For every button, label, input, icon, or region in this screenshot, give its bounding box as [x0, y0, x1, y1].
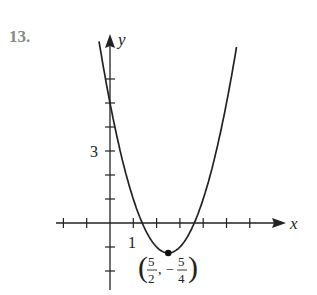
x-tick-label-1: 1	[128, 234, 136, 251]
svg-text:−: −	[166, 262, 174, 277]
svg-text:5: 5	[178, 254, 185, 269]
svg-text:2: 2	[148, 271, 155, 286]
y-tick-label-3: 3	[90, 143, 98, 160]
x-axis-label: x	[289, 214, 298, 233]
svg-text:5: 5	[148, 254, 155, 269]
parabola-curve	[99, 41, 237, 253]
parabola-graph: x y 1 3 ( 5 2 , − 5 4 )	[0, 0, 317, 295]
x-axis-arrow-icon	[272, 218, 286, 228]
svg-text:4: 4	[178, 271, 185, 286]
svg-text:): )	[188, 250, 198, 284]
svg-text:,: ,	[158, 262, 162, 277]
y-axis-label: y	[116, 30, 126, 49]
vertex-point	[165, 250, 172, 257]
y-axis-arrow-icon	[105, 34, 115, 48]
svg-text:(: (	[138, 250, 148, 284]
